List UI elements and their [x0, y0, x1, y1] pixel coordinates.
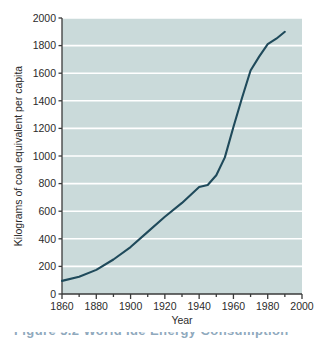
- x-axis-tick-label: 2000: [290, 300, 314, 312]
- y-axis-tick-label: 2000: [33, 12, 57, 24]
- energy-consumption-line-chart: 0200400600800100012001400160018002000 18…: [0, 0, 331, 343]
- x-axis-tick-label: 1960: [222, 300, 246, 312]
- y-axis-tick-label: 400: [38, 233, 56, 245]
- y-axis-tick-label: 600: [38, 205, 56, 217]
- x-axis-tick-label: 1920: [153, 300, 177, 312]
- figure-panel: 0200400600800100012001400160018002000 18…: [0, 0, 331, 343]
- y-axis-tick-label: 1800: [33, 39, 57, 51]
- y-axis-tick-label: 1600: [33, 67, 57, 79]
- figure-caption-cropped: Figure 5.2 World Ide Energy Consumption: [0, 332, 331, 343]
- x-axis-tick-labels: 18601880190019201940196019802000: [50, 300, 314, 312]
- y-axis-tick-label: 1000: [33, 150, 57, 162]
- y-axis-tick-labels: 0200400600800100012001400160018002000: [33, 12, 57, 300]
- x-axis-tick-label: 1880: [85, 300, 109, 312]
- y-axis-tick-label: 0: [50, 288, 56, 300]
- figure-caption-text: Figure 5.2 World Ide Energy Consumption: [14, 332, 289, 338]
- y-axis-tick-label: 800: [38, 177, 56, 189]
- y-axis-tick-label: 1200: [33, 122, 57, 134]
- x-axis-tick-label: 1900: [119, 300, 143, 312]
- y-axis-title: Kilograms of coal equivalent per capita: [12, 66, 24, 247]
- x-axis-ticks: [62, 294, 302, 299]
- y-axis-tick-label: 200: [38, 260, 56, 272]
- x-axis-tick-label: 1980: [256, 300, 280, 312]
- x-axis-tick-label: 1860: [50, 300, 74, 312]
- x-axis-title: Year: [171, 314, 193, 326]
- y-axis-tick-label: 1400: [33, 95, 57, 107]
- x-axis-tick-label: 1940: [187, 300, 211, 312]
